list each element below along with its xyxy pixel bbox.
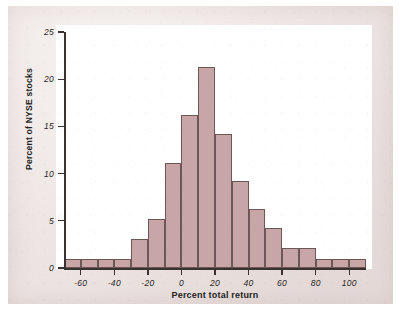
histogram-bar bbox=[131, 239, 148, 268]
histogram-bar bbox=[198, 67, 215, 268]
y-axis-tick bbox=[58, 126, 64, 127]
histogram-bar bbox=[232, 181, 249, 268]
y-axis-tick-label: 5 bbox=[30, 216, 54, 226]
x-axis-tick-label: -60 bbox=[64, 278, 98, 288]
x-axis-tick bbox=[248, 269, 249, 275]
x-axis-tick bbox=[147, 269, 148, 275]
x-axis-tick bbox=[214, 269, 215, 275]
x-axis-tick bbox=[181, 269, 182, 275]
y-axis-tick bbox=[58, 220, 64, 221]
histogram-bar bbox=[181, 115, 198, 268]
histogram-bar bbox=[98, 259, 115, 268]
x-axis-tick bbox=[80, 269, 81, 275]
x-axis-tick-label: 80 bbox=[299, 278, 333, 288]
histogram-bar bbox=[165, 163, 182, 268]
y-axis-line bbox=[64, 32, 66, 269]
x-axis-tick-label: 20 bbox=[198, 278, 232, 288]
histogram-bar bbox=[349, 259, 366, 268]
histogram-bar bbox=[316, 259, 333, 268]
histogram-bar bbox=[148, 219, 165, 268]
histogram-figure: 0510152025 -60-40-20020406080100 Percent… bbox=[0, 0, 401, 311]
x-axis-tick bbox=[281, 269, 282, 275]
y-axis-tick-label: 0 bbox=[30, 263, 54, 273]
y-axis-tick-label: 25 bbox=[30, 27, 54, 37]
x-axis-tick-label: -40 bbox=[97, 278, 131, 288]
x-axis-tick bbox=[114, 269, 115, 275]
y-axis-title: Percent of NYSE stocks bbox=[24, 44, 34, 194]
y-axis-tick bbox=[58, 31, 64, 32]
histogram-bar bbox=[64, 259, 81, 268]
histogram-bar bbox=[299, 248, 316, 268]
histogram-bar bbox=[282, 248, 299, 268]
scanned-page: 0510152025 -60-40-20020406080100 Percent… bbox=[8, 6, 393, 304]
x-axis-tick bbox=[349, 269, 350, 275]
x-axis-tick-label: 0 bbox=[164, 278, 198, 288]
y-axis-tick bbox=[58, 173, 64, 174]
histogram-bar bbox=[215, 134, 232, 268]
histogram-bar bbox=[249, 209, 266, 268]
y-axis-tick bbox=[58, 79, 64, 80]
histogram-bar bbox=[265, 228, 282, 268]
x-axis-tick bbox=[315, 269, 316, 275]
histogram-bar bbox=[114, 259, 131, 268]
x-axis-tick-label: 100 bbox=[332, 278, 366, 288]
histogram-bar bbox=[81, 259, 98, 268]
x-axis-title: Percent total return bbox=[64, 290, 366, 300]
x-axis-tick-label: 40 bbox=[232, 278, 266, 288]
y-axis-tick bbox=[58, 267, 64, 268]
histogram-bar bbox=[332, 259, 349, 268]
x-axis-tick-label: 60 bbox=[265, 278, 299, 288]
x-axis-tick-label: -20 bbox=[131, 278, 165, 288]
